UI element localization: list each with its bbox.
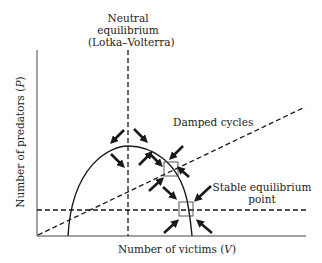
stable-equilibrium-box — [179, 202, 193, 216]
diagonal-dashed-isocline — [38, 107, 305, 235]
isocline-diagram — [0, 0, 322, 263]
prey-isocline-curve — [68, 146, 192, 236]
trajectory-arrows — [111, 129, 212, 233]
